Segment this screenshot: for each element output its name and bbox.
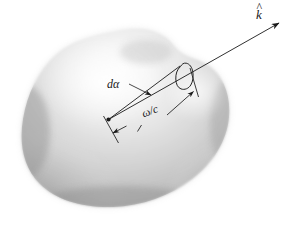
source-point-marker <box>106 117 110 121</box>
figure-canvas: ^ k dα ω/c <box>0 0 301 227</box>
blob-shadow-left-rim <box>0 84 50 180</box>
k-hat-accent: ^ <box>257 2 263 14</box>
label-k-hat: ^ k <box>256 8 262 21</box>
label-d-alpha: dα <box>107 78 119 90</box>
radiating-volume-blob <box>0 29 250 227</box>
blob-saddle-shade <box>120 40 172 64</box>
